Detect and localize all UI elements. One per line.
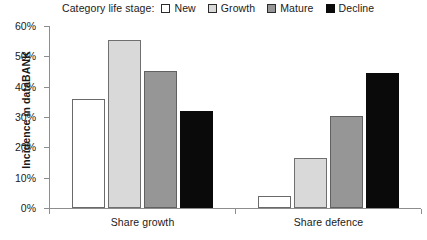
legend-swatch-new <box>161 4 170 13</box>
y-tick: 40% <box>44 87 49 88</box>
chart-legend: Category life stage: New Growth Mature D… <box>62 2 386 14</box>
y-tick: 10% <box>44 178 49 179</box>
bar-share-defence-mature <box>330 116 363 208</box>
y-axis-line <box>49 26 50 214</box>
legend-label-new: New <box>174 2 195 14</box>
x-tick <box>49 209 50 214</box>
x-tick <box>235 209 236 214</box>
y-tick: 50% <box>44 56 49 57</box>
x-axis-label-share-growth: Share growth <box>72 216 213 228</box>
y-tick: 30% <box>44 117 49 118</box>
legend-swatch-mature <box>267 4 276 13</box>
y-tick-label: 30% <box>15 112 36 122</box>
legend-entry-mature: Mature <box>267 2 313 14</box>
bar-share-growth-decline <box>180 111 213 208</box>
legend-title: Category life stage: <box>62 2 154 14</box>
y-tick-label: 0% <box>21 203 36 213</box>
legend-entry-growth: Growth <box>208 2 255 14</box>
bar-share-defence-decline <box>366 73 399 208</box>
x-axis-label-share-defence: Share defence <box>258 216 399 228</box>
y-tick: 20% <box>44 147 49 148</box>
legend-entry-new: New <box>161 2 195 14</box>
legend-swatch-decline <box>326 4 335 13</box>
bar-chart: Category life stage: New Growth Mature D… <box>0 0 427 240</box>
y-tick-label: 10% <box>15 173 36 183</box>
legend-entry-decline: Decline <box>326 2 375 14</box>
legend-label-decline: Decline <box>339 2 375 14</box>
plot-area: 0%10%20%30%40%50%60% Share growthShare d… <box>49 20 421 210</box>
x-tick <box>421 209 422 214</box>
y-tick-label: 60% <box>15 21 36 31</box>
bar-share-growth-growth <box>108 40 141 208</box>
bar-share-defence-growth <box>294 158 327 208</box>
y-tick-label: 40% <box>15 82 36 92</box>
legend-swatch-growth <box>208 4 217 13</box>
bar-share-defence-new <box>258 196 291 208</box>
bar-share-growth-mature <box>144 71 177 208</box>
y-tick: 60% <box>44 26 49 27</box>
bar-share-growth-new <box>72 99 105 208</box>
y-tick-label: 20% <box>15 142 36 152</box>
legend-label-mature: Mature <box>280 2 313 14</box>
legend-label-growth: Growth <box>221 2 255 14</box>
y-tick-label: 50% <box>15 51 36 61</box>
